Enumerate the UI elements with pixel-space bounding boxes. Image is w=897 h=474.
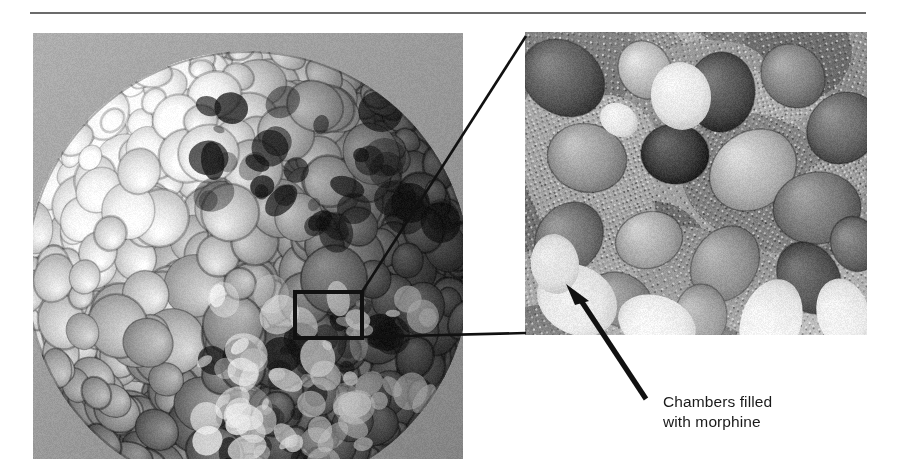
sem-sphere-image: [33, 33, 463, 459]
figure-container: Chambers filled with morphine: [0, 0, 897, 474]
top-divider-rule: [30, 12, 866, 14]
sem-magnified-image: [525, 32, 867, 335]
inset-sem-micrograph: [525, 32, 867, 335]
main-sem-micrograph: [33, 33, 463, 459]
annotation-label-chambers: Chambers filled with morphine: [663, 392, 873, 432]
